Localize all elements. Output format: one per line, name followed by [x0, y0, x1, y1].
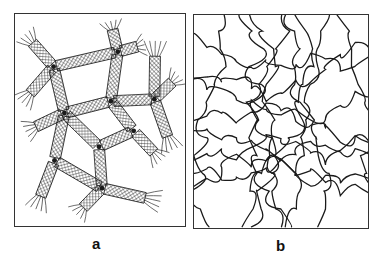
junction-node	[108, 99, 113, 104]
junction-node	[100, 186, 105, 191]
junction-node	[152, 97, 157, 102]
panel-label-b: b	[276, 238, 285, 253]
ribbon-bundle	[99, 127, 133, 150]
junction-node	[52, 158, 57, 163]
polymer-chain	[285, 15, 329, 227]
ribbon-bundle	[102, 178, 162, 213]
panel-label-a: a	[92, 236, 100, 251]
polymer-chain	[242, 15, 290, 227]
junction-node	[131, 128, 136, 133]
polymer-chain	[284, 15, 331, 227]
ribbon-bundle	[106, 54, 123, 99]
junction-node	[62, 111, 67, 116]
polymer-chain	[194, 78, 368, 123]
junction-node	[115, 49, 120, 54]
coil-network-drawing	[194, 15, 368, 228]
polymer-chain	[194, 159, 368, 186]
ribbon-bundle	[49, 68, 69, 111]
panel-b-coil-network	[193, 14, 369, 229]
junction-node	[51, 64, 56, 69]
ribbon-bundle	[55, 47, 116, 71]
junction-node	[97, 144, 102, 149]
panel-a-ribbon-network	[14, 13, 186, 227]
ribbon-network-drawing	[15, 14, 185, 226]
polymer-chain	[239, 15, 292, 227]
ribbon-bundle	[63, 111, 101, 148]
